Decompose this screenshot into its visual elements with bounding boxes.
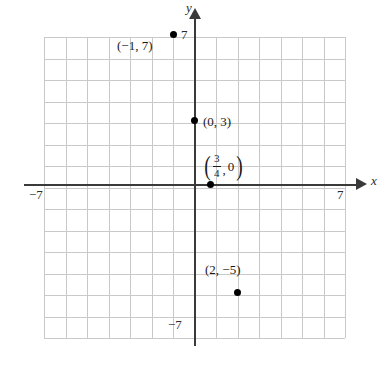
point-label-2-minus5: (2, −5)	[205, 262, 241, 278]
x-axis-min-tick-label: −7	[29, 187, 43, 203]
x-axis-max-tick-label: 7	[337, 187, 344, 203]
point-label-three-fourths-0: ( 3 4 , 0 )	[203, 153, 244, 180]
grid-line-vertical	[345, 37, 346, 338]
open-paren: (	[204, 153, 210, 180]
plotted-point-dot	[170, 31, 177, 38]
fraction-three-fourths: 3 4	[213, 153, 221, 179]
point-label-minus1-7: (−1, 7)	[117, 38, 153, 54]
label-comma: ,	[223, 162, 226, 180]
close-paren: )	[237, 153, 243, 180]
x-axis-line	[24, 184, 360, 186]
fraction-numerator: 3	[213, 153, 221, 165]
y-axis-min-tick-label: −7	[168, 317, 182, 333]
point-label-0-3: (0, 3)	[203, 114, 231, 130]
plotted-point-dot	[234, 289, 241, 296]
x-axis-name-label: x	[371, 173, 377, 189]
label-y-value: 0	[228, 159, 235, 175]
y-axis-line	[194, 16, 196, 346]
x-axis-arrowhead-icon	[356, 178, 367, 190]
y-axis-max-tick-label: 7	[181, 27, 188, 43]
y-axis-name-label: y	[186, 0, 192, 16]
fraction-denominator: 4	[213, 168, 221, 180]
coordinate-plane-figure: x y −7 7 7 −7 (−1, 7) (0, 3) (2, −5) ( 3…	[0, 0, 387, 367]
plotted-point-dot	[191, 117, 198, 124]
